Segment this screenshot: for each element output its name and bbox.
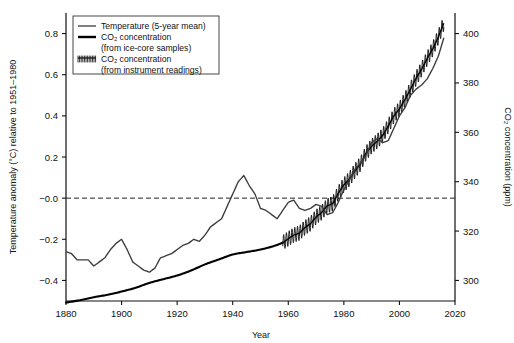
y-axis-title-left: Temperature anomaly (°C) relative to 195… [8,60,18,255]
x-tick-label: 1920 [167,308,188,319]
legend-sublabel: (from instrument readings) [101,65,202,75]
x-tick-label: 2000 [389,308,410,319]
y-tick-label-left: 0.6 [45,69,58,80]
y-tick-label-left: −0.2 [39,234,58,245]
legend-sublabel: (from ice-core samples) [101,43,191,53]
x-tick-label: 1980 [333,308,354,319]
y-tick-label-right: 300 [463,275,479,286]
y-tick-label-left: 0.2 [45,152,58,163]
x-tick-label: 1880 [55,308,76,319]
y-tick-label-right: 400 [463,28,479,39]
y-tick-label-left: 0.4 [45,110,58,121]
y-tick-label-right: 360 [463,127,479,138]
x-tick-label: 2020 [444,308,465,319]
y-axis-title-right: CO₂ concentration (ppm) [503,107,513,207]
chart-legend: Temperature (5-year mean)CO₂ concentrati… [73,16,219,75]
y-tick-label-left: 0.8 [45,28,58,39]
y-tick-label-left: −0.4 [39,275,58,286]
y-tick-label-right: 320 [463,226,479,237]
chart-canvas: 18801900192019401960198020002020−0.4−0.2… [0,0,514,343]
legend-label: CO₂ concentration [101,32,171,42]
y-tick-label-right: 380 [463,77,479,88]
legend-label: Temperature (5-year mean) [101,21,206,31]
legend-label: CO₂ concentration [101,54,171,64]
y-tick-label-left: −0.0 [39,193,58,204]
x-tick-label: 1900 [111,308,132,319]
x-tick-label: 1960 [278,308,299,319]
x-axis-title: Year [252,330,270,340]
y-tick-label-right: 340 [463,176,479,187]
climate-chart-figure: 18801900192019401960198020002020−0.4−0.2… [0,0,514,343]
x-tick-label: 1940 [222,308,243,319]
